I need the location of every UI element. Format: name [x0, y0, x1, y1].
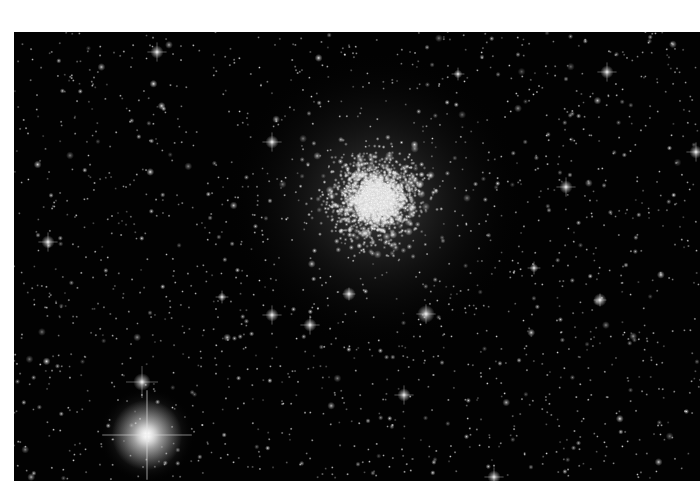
- star-cluster-photo: [14, 32, 700, 481]
- starfield-canvas: [14, 32, 700, 481]
